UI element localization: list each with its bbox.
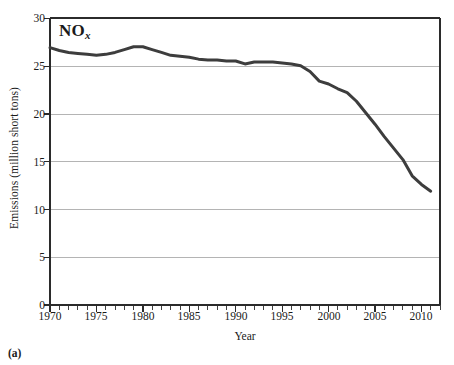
y-tick-label: 15	[21, 157, 45, 168]
x-tick-label: 2005	[352, 309, 398, 323]
figure-caption: (a)	[8, 346, 21, 360]
y-tick-label: 25	[21, 61, 45, 72]
x-tick-label: 1975	[73, 309, 119, 323]
figure-nox-emissions: Emissions (million short tons) 30 25 20 …	[0, 0, 454, 365]
series-annotation-main: NO	[59, 21, 85, 40]
x-tick-label: 1970	[27, 309, 73, 323]
x-axis-title: Year	[50, 329, 440, 343]
y-tick-label: 20	[21, 109, 45, 120]
y-tick-label: 30	[21, 13, 45, 24]
x-tick-label: 2010	[398, 309, 444, 323]
x-tick-label: 1980	[120, 309, 166, 323]
x-tick-label: 2000	[306, 309, 352, 323]
series-annotation-nox: NOx	[59, 21, 91, 42]
y-tick-label: 5	[21, 252, 45, 263]
x-tick-label: 1995	[259, 309, 305, 323]
x-tick-label: 1985	[166, 309, 212, 323]
y-tick-label: 10	[21, 205, 45, 216]
x-tick-label: 1990	[213, 309, 259, 323]
series-annotation-subscript: x	[85, 29, 91, 41]
x-axis-tick-labels: 1970 1975 1980 1985 1990 1995 2000 2005 …	[0, 309, 454, 327]
